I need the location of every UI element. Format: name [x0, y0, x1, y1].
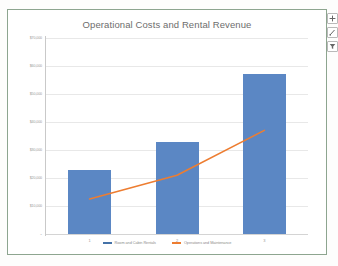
y-axis-tick-label: $60,000 [8, 64, 42, 68]
legend-label: Room and Cabin Rentals [115, 241, 156, 245]
chart-title: Operational Costs and Rental Revenue [8, 19, 326, 30]
y-axis-tick-label: $40,000 [8, 120, 42, 124]
screenshot-page: Operational Costs and Rental Revenue $70… [0, 0, 338, 266]
chart-legend: Room and Cabin RentalsOperations and Mai… [8, 241, 326, 245]
y-axis-tick-label: - [8, 231, 42, 237]
bar [156, 142, 199, 234]
plus-icon [329, 15, 336, 22]
bar [243, 74, 286, 234]
brush-icon [329, 29, 336, 36]
chart-controls[interactable] [327, 13, 338, 52]
legend-item[interactable]: Room and Cabin Rentals [103, 241, 156, 245]
bar [68, 170, 111, 234]
legend-line-swatch-icon [172, 242, 181, 244]
y-axis-tick-label: $30,000 [8, 148, 42, 152]
chart-filters-button[interactable] [327, 41, 338, 52]
chart-styles-button[interactable] [327, 27, 338, 38]
y-axis-tick-label: $10,000 [8, 204, 42, 208]
chart-elements-button[interactable] [327, 13, 338, 24]
x-axis-line [46, 234, 308, 235]
legend-label: Operations and Maintenance [184, 241, 231, 245]
legend-item[interactable]: Operations and Maintenance [172, 241, 231, 245]
y-axis-tick-label: $50,000 [8, 92, 42, 96]
y-axis-tick-label: $70,000 [8, 36, 42, 40]
y-axis-tick-label: $20,000 [8, 176, 42, 180]
legend-bar-swatch-icon [103, 242, 112, 245]
chart-container[interactable]: Operational Costs and Rental Revenue $70… [7, 9, 327, 255]
bar-series [46, 38, 308, 234]
funnel-icon [329, 43, 336, 50]
